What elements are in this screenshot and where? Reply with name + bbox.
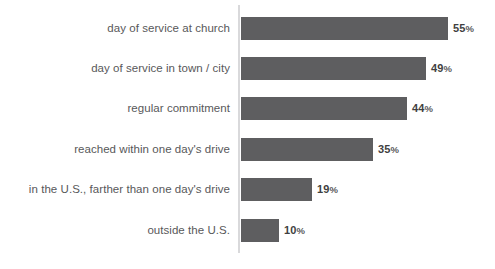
bar-value-label: 44% bbox=[412, 102, 433, 114]
percent-symbol: % bbox=[424, 103, 433, 114]
percent-symbol: % bbox=[296, 225, 305, 236]
table-row: outside the U.S. 10% bbox=[0, 218, 495, 242]
table-row: day of service in town / city 49% bbox=[0, 56, 495, 80]
bar-segment bbox=[241, 178, 312, 201]
bar-value-label: 55% bbox=[453, 22, 474, 34]
bar-category-label: reached within one day's drive bbox=[0, 143, 230, 156]
bar-value-label: 10% bbox=[284, 224, 305, 236]
bar-value-number: 35 bbox=[378, 143, 390, 155]
bar-value-number: 44 bbox=[412, 102, 424, 114]
bar-value-group: 19% bbox=[241, 177, 338, 201]
percent-symbol: % bbox=[390, 144, 399, 155]
bar-value-number: 10 bbox=[284, 224, 296, 236]
bar-segment bbox=[241, 219, 279, 242]
percent-symbol: % bbox=[443, 63, 452, 74]
bar-value-group: 55% bbox=[241, 16, 474, 40]
table-row: in the U.S., farther than one day's driv… bbox=[0, 177, 495, 201]
bar-segment bbox=[241, 138, 373, 161]
bar-category-label: day of service in town / city bbox=[0, 62, 230, 75]
bar-value-group: 49% bbox=[241, 56, 452, 80]
bar-value-group: 35% bbox=[241, 137, 399, 161]
bar-value-number: 19 bbox=[317, 183, 329, 195]
bar-value-label: 49% bbox=[431, 62, 452, 74]
bar-value-group: 44% bbox=[241, 96, 433, 120]
bar-segment bbox=[241, 57, 426, 80]
bar-value-number: 55 bbox=[453, 22, 465, 34]
bar-segment bbox=[241, 97, 407, 120]
bar-category-label: outside the U.S. bbox=[0, 224, 230, 237]
horizontal-bar-chart: day of service at church 55% day of serv… bbox=[0, 0, 495, 269]
bar-category-label: regular commitment bbox=[0, 102, 230, 115]
table-row: reached within one day's drive 35% bbox=[0, 137, 495, 161]
table-row: day of service at church 55% bbox=[0, 16, 495, 40]
bar-rows-container: day of service at church 55% day of serv… bbox=[0, 0, 495, 269]
bar-category-label: in the U.S., farther than one day's driv… bbox=[0, 183, 230, 196]
bar-category-label: day of service at church bbox=[0, 22, 230, 35]
bar-value-number: 49 bbox=[431, 62, 443, 74]
bar-value-label: 19% bbox=[317, 183, 338, 195]
bar-segment bbox=[241, 17, 448, 40]
bar-value-group: 10% bbox=[241, 218, 305, 242]
percent-symbol: % bbox=[329, 184, 338, 195]
percent-symbol: % bbox=[465, 23, 474, 34]
bar-value-label: 35% bbox=[378, 143, 399, 155]
table-row: regular commitment 44% bbox=[0, 96, 495, 120]
